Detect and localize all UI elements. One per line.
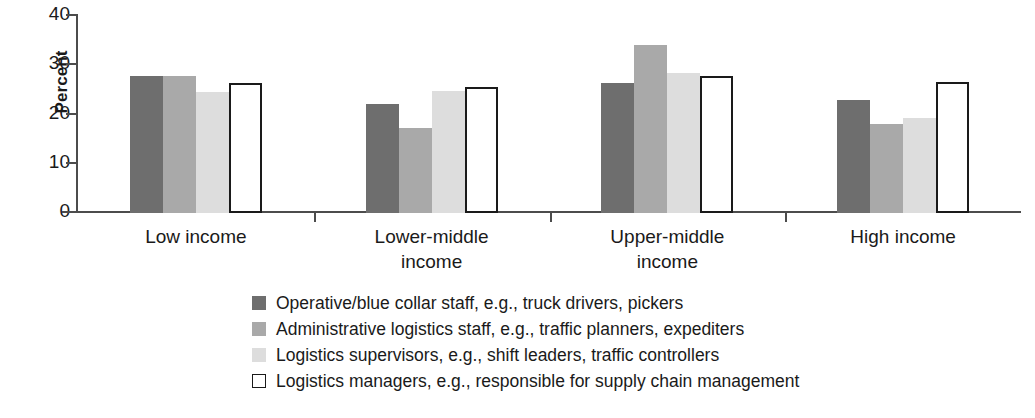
- bar: [196, 92, 229, 213]
- x-axis-group-label-line: Upper-middle: [550, 224, 786, 249]
- x-axis-group-label: Low income: [78, 224, 314, 249]
- legend-item-label: Logistics supervisors, e.g., shift leade…: [276, 344, 719, 366]
- x-axis-group-label-line: income: [314, 249, 550, 274]
- x-axis-group-label-line: income: [550, 249, 786, 274]
- bar: [936, 82, 969, 213]
- x-axis-group-separator: [550, 213, 552, 222]
- x-axis-group-labels: Low incomeLower-middleincomeUpper-middle…: [0, 224, 1035, 290]
- x-axis-group-separator: [314, 213, 316, 222]
- bar: [465, 87, 498, 213]
- x-axis-group-label: Lower-middleincome: [314, 224, 550, 274]
- legend-swatch-icon: [252, 322, 266, 336]
- bar: [903, 118, 936, 213]
- x-axis-group-label: High income: [785, 224, 1021, 249]
- bar: [130, 76, 163, 213]
- y-axis-tick-mark: [66, 162, 77, 164]
- legend-item-label: Logistics managers, e.g., responsible fo…: [276, 370, 799, 392]
- legend-swatch-icon: [252, 296, 266, 310]
- bars-layer: [0, 0, 1035, 213]
- legend-item-label: Operative/blue collar staff, e.g., truck…: [276, 292, 683, 314]
- plot-area: Percent 010203040 Low incomeLower-middle…: [0, 0, 1035, 290]
- legend-item[interactable]: Operative/blue collar staff, e.g., truck…: [252, 290, 1012, 316]
- bar: [667, 73, 700, 213]
- bar: [634, 45, 667, 213]
- x-axis-group-label-line: Lower-middle: [314, 224, 550, 249]
- bar: [163, 76, 196, 213]
- bar: [432, 91, 465, 213]
- y-axis-tick-mark: [66, 63, 77, 65]
- legend-item[interactable]: Administrative logistics staff, e.g., tr…: [252, 316, 1012, 342]
- y-axis-tick-mark: [66, 113, 77, 115]
- x-axis-group-label-line: Low income: [78, 224, 314, 249]
- bar: [870, 124, 903, 213]
- legend-item-label: Administrative logistics staff, e.g., tr…: [276, 318, 744, 340]
- y-axis-tick-mark: [66, 14, 77, 16]
- x-axis-group-label: Upper-middleincome: [550, 224, 786, 274]
- bar: [837, 100, 870, 213]
- x-axis-group-separator: [785, 213, 787, 222]
- legend-item[interactable]: Logistics supervisors, e.g., shift leade…: [252, 342, 1012, 368]
- bar-chart-figure: Percent 010203040 Low incomeLower-middle…: [0, 0, 1035, 418]
- bar: [366, 104, 399, 213]
- legend-swatch-icon: [252, 374, 266, 388]
- legend-item[interactable]: Logistics managers, e.g., responsible fo…: [252, 368, 1012, 394]
- legend-swatch-icon: [252, 348, 266, 362]
- bar: [601, 83, 634, 214]
- chart-legend: Operative/blue collar staff, e.g., truck…: [252, 290, 1012, 394]
- y-axis-tick-mark: [62, 211, 77, 213]
- x-axis-group-label-line: High income: [785, 224, 1021, 249]
- bar: [399, 128, 432, 213]
- bar: [229, 83, 262, 214]
- bar: [700, 76, 733, 213]
